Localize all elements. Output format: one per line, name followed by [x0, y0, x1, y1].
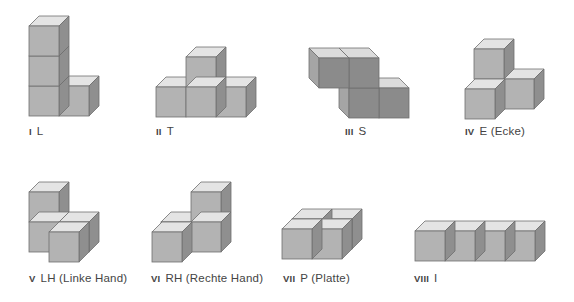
label-numeral: III: [345, 126, 354, 137]
label-numeral: II: [156, 126, 162, 137]
label-name: LH (Linke Hand): [41, 272, 128, 284]
piece-RH: [152, 182, 231, 262]
piece-S: [309, 48, 409, 118]
label-piece-I: VIIII: [414, 272, 437, 284]
polycube-pieces-diagram: [0, 0, 574, 302]
label-piece-RH: VIRH (Rechte Hand): [151, 272, 263, 284]
label-piece-L: IL: [29, 125, 43, 137]
label-name: P (Platte): [300, 272, 350, 284]
label-name: I: [434, 272, 437, 284]
label-piece-S: IIIS: [345, 125, 366, 137]
label-numeral: V: [29, 273, 36, 284]
label-numeral: IV: [465, 126, 474, 137]
piece-E: [465, 39, 544, 119]
label-name: RH (Rechte Hand): [165, 272, 263, 284]
piece-T: [156, 47, 256, 117]
label-numeral: VII: [283, 273, 295, 284]
piece-LH: [29, 182, 99, 262]
label-name: S: [359, 125, 367, 137]
label-piece-T: IIT: [156, 125, 174, 137]
label-piece-LH: VLH (Linke Hand): [29, 272, 127, 284]
label-numeral: VI: [151, 273, 160, 284]
label-piece-P: VIIP (Platte): [283, 272, 350, 284]
label-name: L: [37, 125, 44, 137]
piece-P: [282, 209, 362, 259]
label-name: E (Ecke): [479, 125, 525, 137]
piece-L: [29, 16, 99, 116]
label-numeral: VIII: [414, 273, 429, 284]
label-name: T: [167, 125, 174, 137]
label-numeral: I: [29, 126, 32, 137]
label-piece-E: IVE (Ecke): [465, 125, 525, 137]
piece-I: [415, 221, 545, 261]
